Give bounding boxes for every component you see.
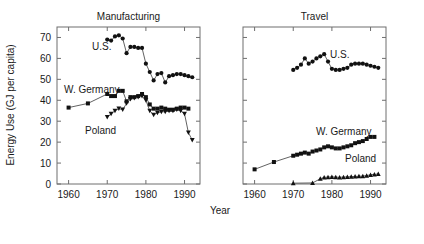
data-point: [86, 101, 90, 105]
data-point: [163, 80, 167, 84]
data-point: [190, 138, 195, 143]
data-point: [190, 75, 194, 79]
data-point: [299, 152, 303, 156]
data-point: [291, 154, 295, 158]
data-point: [128, 45, 132, 49]
data-point: [121, 36, 125, 40]
data-point: [124, 51, 128, 55]
data-point: [365, 63, 369, 67]
data-point: [349, 63, 353, 67]
data-point: [357, 140, 361, 144]
data-point: [272, 160, 276, 164]
series-label-poland-right: Poland: [345, 153, 376, 164]
series-label-wgermany-left: W. Germany: [64, 84, 120, 95]
panel-title-left: Manufacturing: [97, 11, 160, 22]
data-point: [330, 145, 334, 149]
data-point: [295, 66, 299, 70]
data-point: [159, 71, 163, 75]
data-point: [353, 62, 357, 66]
series-label-wgermany-right: W. Germany: [316, 126, 372, 137]
data-point: [307, 62, 311, 66]
data-point: [151, 113, 156, 118]
data-point: [318, 54, 322, 58]
data-point: [303, 56, 307, 60]
data-point: [295, 153, 299, 157]
data-point: [186, 107, 190, 111]
data-point: [291, 68, 295, 72]
data-point: [326, 144, 330, 148]
x-axis-title: Year: [210, 205, 231, 216]
x-tick-label: 1960: [57, 189, 80, 200]
data-point: [322, 145, 326, 149]
data-point: [159, 106, 163, 110]
data-point: [303, 151, 307, 155]
x-tick-label: 1980: [135, 189, 158, 200]
y-tick-label: 50: [40, 74, 52, 85]
data-point: [318, 147, 322, 151]
data-point: [341, 145, 345, 149]
series-label-poland-left: Poland: [85, 125, 116, 136]
data-point: [183, 106, 187, 110]
data-point: [253, 167, 257, 171]
series-label-us-right: U.S.: [330, 49, 349, 60]
data-point: [167, 74, 171, 78]
y-tick-label: 10: [40, 158, 52, 169]
data-point: [307, 152, 311, 156]
data-point: [334, 146, 338, 150]
data-point: [179, 72, 183, 76]
data-point: [376, 66, 380, 70]
x-tick-label: 1980: [321, 189, 344, 200]
x-tick-label: 1990: [359, 189, 382, 200]
data-point: [186, 74, 190, 78]
data-point: [144, 62, 148, 66]
data-point: [345, 144, 349, 148]
data-point: [148, 70, 152, 74]
data-point: [318, 176, 323, 181]
data-point: [120, 108, 125, 113]
y-tick-label: 0: [45, 179, 51, 190]
figure-container: 0102030405060701960197019801990Manufactu…: [0, 0, 424, 244]
data-point: [322, 52, 326, 56]
y-tick-label: 60: [40, 53, 52, 64]
data-point: [186, 131, 191, 136]
data-point: [136, 46, 140, 50]
data-point: [372, 65, 376, 69]
data-point: [368, 64, 372, 68]
data-point: [326, 59, 330, 63]
data-point: [345, 66, 349, 70]
data-point: [311, 150, 315, 154]
x-tick-label: 1990: [173, 189, 196, 200]
x-tick-label: 1960: [243, 189, 266, 200]
y-tick-label: 70: [40, 32, 52, 43]
data-point: [117, 33, 121, 37]
data-point: [182, 112, 187, 117]
data-point: [314, 56, 318, 60]
data-point: [330, 67, 334, 71]
data-point: [140, 46, 144, 50]
data-point: [152, 78, 156, 82]
data-point: [372, 135, 376, 139]
x-tick-label: 1970: [282, 189, 305, 200]
data-point: [67, 106, 71, 110]
x-tick-label: 1970: [96, 189, 119, 200]
data-point: [155, 72, 159, 76]
data-point: [105, 115, 110, 120]
y-tick-label: 20: [40, 137, 52, 148]
series-label-us-left: U.S.: [92, 41, 111, 52]
data-point: [155, 107, 159, 111]
dual-panel-line-chart: 0102030405060701960197019801990Manufactu…: [0, 0, 424, 244]
data-point: [334, 68, 338, 72]
data-point: [349, 143, 353, 147]
data-point: [171, 73, 175, 77]
data-point: [152, 107, 156, 111]
data-point: [310, 59, 314, 63]
data-point: [361, 62, 365, 66]
data-point: [299, 63, 303, 67]
chart-canvas: 0102030405060701960197019801990Manufactu…: [0, 0, 424, 244]
y-axis-title: Energy Use (GJ per capita): [5, 44, 16, 165]
y-tick-label: 30: [40, 116, 52, 127]
data-point: [341, 67, 345, 71]
data-point: [353, 141, 357, 145]
data-point: [113, 34, 117, 38]
data-point: [365, 137, 369, 141]
